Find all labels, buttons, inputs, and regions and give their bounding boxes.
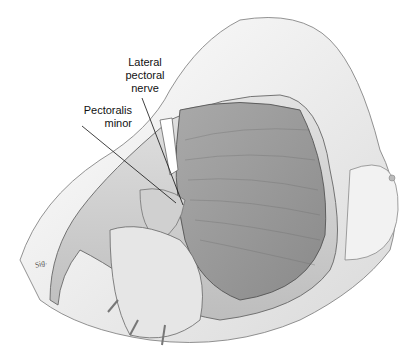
label-pectoralis-minor: Pectoralis minor [52, 104, 132, 130]
label-line: pectoral [110, 69, 180, 82]
label-line: minor [52, 117, 132, 130]
anatomical-illustration: Sig. [0, 0, 409, 359]
label-line: Lateral [110, 56, 180, 69]
label-line: Pectoralis [52, 104, 132, 117]
nipple [389, 175, 395, 181]
label-lateral-pectoral-nerve: Lateral pectoral nerve [110, 56, 180, 95]
label-line: nerve [110, 82, 180, 95]
